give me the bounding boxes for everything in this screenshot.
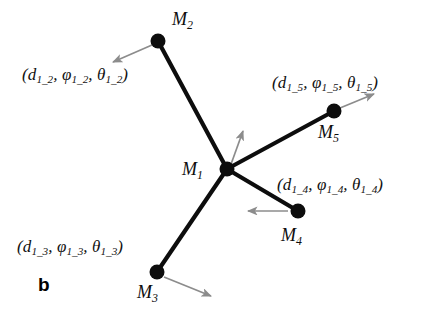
node-label-m2: M2 <box>172 10 193 31</box>
edge-param-label-e15: (d1_5, φ1_5, θ1_5) <box>272 74 378 93</box>
comma-separator: , <box>303 73 312 92</box>
comma-separator: , <box>53 65 62 84</box>
node-label-m3: M3 <box>137 283 158 304</box>
comma-separator: , <box>308 175 317 194</box>
motion-arrow-m3 <box>164 277 211 296</box>
node-m5 <box>327 104 342 119</box>
graph-edge-m1-m3 <box>157 169 227 272</box>
node-m2 <box>151 34 166 49</box>
subscript-d: 1_2 <box>36 73 53 85</box>
comma-separator: , <box>83 237 92 256</box>
node-label-base: M <box>281 225 296 245</box>
node-label-base: M <box>137 282 152 302</box>
motion-arrow-m5 <box>340 94 374 108</box>
symbol-phi: φ <box>317 175 327 194</box>
paren-close: ) <box>372 73 378 92</box>
node-label-subscript: 2 <box>187 18 193 32</box>
node-label-subscript: 5 <box>333 131 339 145</box>
graph-canvas <box>0 0 431 315</box>
node-label-subscript: 3 <box>152 291 158 305</box>
subscript-theta: 1_5 <box>355 81 372 93</box>
comma-separator: , <box>48 237 57 256</box>
comma-separator: , <box>88 65 97 84</box>
subscript-phi: 1_3 <box>66 245 83 257</box>
subscript-d: 1_3 <box>31 245 48 257</box>
node-label-subscript: 4 <box>296 234 302 248</box>
node-label-subscript: 1 <box>197 168 203 182</box>
node-label-base: M <box>182 159 197 179</box>
symbol-phi: φ <box>62 65 72 84</box>
paren-close: ) <box>122 65 128 84</box>
paren-close: ) <box>117 237 123 256</box>
panel-letter-b: b <box>38 275 50 294</box>
node-label-m4: M4 <box>281 226 302 247</box>
node-label-m1: M1 <box>182 160 203 181</box>
symbol-phi: φ <box>312 73 322 92</box>
subscript-phi: 1_2 <box>71 73 88 85</box>
node-m3 <box>150 265 165 280</box>
subscript-d: 1_5 <box>286 81 303 93</box>
symbol-phi: φ <box>57 237 67 256</box>
edge-param-label-e14: (d1_4, φ1_4, θ1_4) <box>277 176 383 195</box>
paren-close: ) <box>377 175 383 194</box>
edge-param-label-e13: (d1_3, φ1_3, θ1_3) <box>17 238 123 257</box>
comma-separator: , <box>338 73 347 92</box>
node-m4 <box>291 204 306 219</box>
node-m1 <box>220 162 235 177</box>
node-label-base: M <box>318 122 333 142</box>
subscript-theta: 1_3 <box>100 245 117 257</box>
node-label-m5: M5 <box>318 123 339 144</box>
node-label-base: M <box>172 9 187 29</box>
subscript-phi: 1_4 <box>326 183 343 195</box>
subscript-theta: 1_4 <box>360 183 377 195</box>
graph-edge-m1-m2 <box>158 41 227 169</box>
comma-separator: , <box>343 175 352 194</box>
subscript-theta: 1_2 <box>105 73 122 85</box>
motion-arrow-m2 <box>113 45 152 62</box>
molecule-graph-figure: (d1_2, φ1_2, θ1_2)(d1_5, φ1_5, θ1_5)(d1_… <box>0 0 431 315</box>
edge-param-label-e12: (d1_2, φ1_2, θ1_2) <box>22 66 128 85</box>
subscript-phi: 1_5 <box>321 81 338 93</box>
subscript-d: 1_4 <box>291 183 308 195</box>
